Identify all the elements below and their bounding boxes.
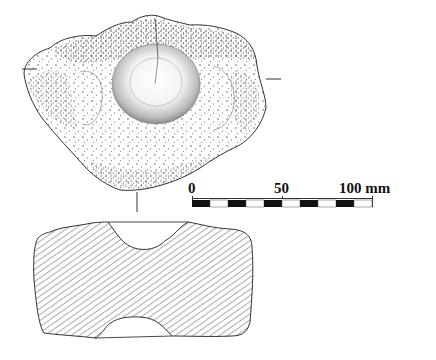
plan-view-drawing (22, 15, 281, 212)
scale-label-50: 50 (274, 181, 289, 196)
scale-label-100mm: 100 mm (339, 181, 390, 196)
lower-depression-chord (95, 336, 172, 338)
scale-bar (192, 196, 373, 207)
scale-segments (192, 200, 372, 207)
scale-label-0: 0 (188, 181, 196, 196)
cross-section-drawing (34, 222, 253, 338)
central-pit (112, 44, 200, 124)
cross-section-outline (34, 222, 253, 338)
